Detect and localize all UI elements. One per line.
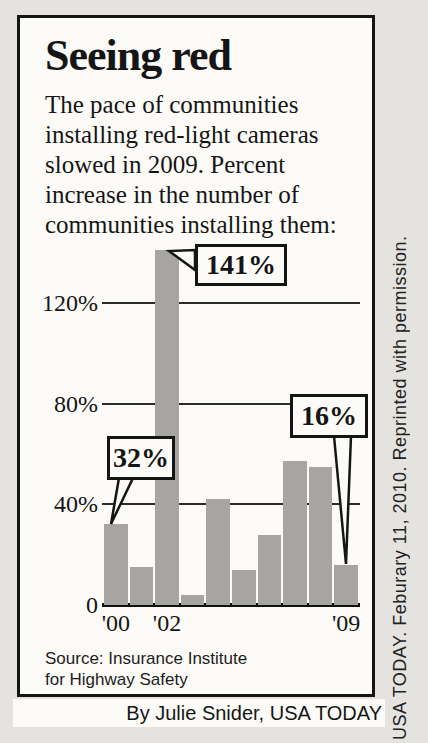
bar-06 xyxy=(258,535,282,605)
bar-05 xyxy=(232,570,256,605)
bar-00 xyxy=(104,524,128,605)
side-caption: USA TODAY. Feburary 11, 2010. Reprinted … xyxy=(390,148,420,740)
callout-16-label: 16% xyxy=(301,400,357,432)
bar-chart: 040%80%120% '00'02'09 141% 32% 16% xyxy=(20,18,372,694)
callout-16: 16% xyxy=(290,394,368,438)
callout-pointer-32 xyxy=(111,478,133,524)
y-tick-label: 80% xyxy=(28,389,98,419)
x-tick-label: '09 xyxy=(332,610,360,636)
bar-07 xyxy=(283,461,307,605)
source-line: Source: Insurance Institute xyxy=(45,648,247,669)
callout-141: 141% xyxy=(195,244,287,286)
bar-03 xyxy=(181,595,205,605)
x-tick-label: '02 xyxy=(153,610,181,636)
callout-32: 32% xyxy=(107,436,175,480)
source-credit: Source: Insurance Institute for Highway … xyxy=(45,648,247,690)
y-tick-label: 0 xyxy=(28,590,98,620)
x-tick-label: '00 xyxy=(102,610,130,636)
bar-08 xyxy=(309,467,333,605)
source-line: for Highway Safety xyxy=(45,669,247,690)
byline: By Julie Snider, USA TODAY xyxy=(13,699,385,727)
y-tick-label: 120% xyxy=(28,288,98,318)
callout-pointer-16 xyxy=(334,436,351,564)
infographic-panel: Seeing red The pace of communities insta… xyxy=(17,15,375,697)
gridline-120 xyxy=(102,302,360,304)
callout-141-label: 141% xyxy=(206,249,276,281)
bar-01 xyxy=(130,567,154,605)
callout-32-label: 32% xyxy=(113,442,169,474)
y-tick-label: 40% xyxy=(28,489,98,519)
bar-09 xyxy=(334,565,358,605)
bar-04 xyxy=(206,499,230,605)
bar-02 xyxy=(155,250,179,605)
